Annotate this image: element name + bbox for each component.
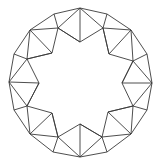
upper-girdle-edge [131, 106, 133, 134]
upper-girdle-edge [80, 137, 102, 157]
upper-girdle-edge [102, 137, 107, 152]
diamond-diagram: Round brilliant cut diamond, crown view [0, 0, 157, 161]
girdle-edge [147, 83, 152, 110]
diamond-crown-svg [0, 0, 157, 161]
star-facet-edge [27, 53, 52, 59]
upper-girdle-edge [103, 14, 107, 28]
kite-facet-edge [108, 112, 131, 134]
star-facet-edge [52, 113, 58, 137]
upper-girdle-edge [9, 59, 27, 82]
girdle-edge [131, 110, 147, 134]
kite-facet-edge [109, 30, 131, 54]
star-facet-edge [122, 61, 133, 83]
star-facet-edge [58, 28, 80, 42]
star-facet-edge [122, 83, 133, 106]
girdle-edge [107, 134, 131, 152]
upper-girdle-edge [30, 28, 58, 30]
kite-facet-edge [30, 113, 52, 134]
star-facet-edge [27, 59, 39, 83]
upper-girdle-edge [9, 82, 27, 106]
upper-girdle-edge [14, 54, 27, 59]
star-facet-edge [103, 28, 109, 54]
star-facet-edge [58, 124, 80, 137]
girdle-edge [9, 54, 14, 82]
star-facet-edge [109, 54, 133, 61]
star-facet-edge [102, 112, 108, 137]
star-facet-edge [80, 28, 103, 42]
upper-girdle-edge [58, 137, 80, 157]
girdle-edge [107, 14, 131, 30]
star-facet-edge [80, 124, 102, 137]
upper-girdle-edge [133, 106, 147, 110]
upper-girdle-edge [30, 134, 58, 137]
upper-girdle-edge [103, 28, 131, 30]
upper-girdle-edge [14, 106, 27, 110]
upper-girdle-edge [131, 30, 133, 61]
girdle-edge [9, 82, 14, 110]
upper-girdle-edge [102, 134, 131, 137]
kite-facet-edge [30, 30, 52, 53]
upper-girdle-edge [54, 14, 58, 28]
upper-girdle-edge [133, 54, 147, 61]
star-facet-edge [108, 106, 133, 112]
star-facet-edge [27, 83, 39, 106]
star-facet-edge [27, 106, 52, 113]
girdle-edge [131, 30, 147, 54]
star-facet-edge [52, 28, 58, 53]
kite-facet-edge [9, 82, 39, 83]
upper-girdle-edge [53, 137, 58, 152]
girdle-edge [30, 134, 53, 152]
upper-girdle-edge [133, 83, 152, 106]
girdle-edge [30, 14, 54, 30]
